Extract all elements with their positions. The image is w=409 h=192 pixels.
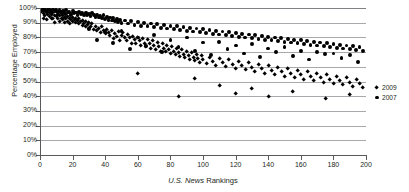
data-point-2009	[323, 96, 328, 101]
y-tick-label: 0%	[3, 151, 37, 158]
data-point-2007	[198, 30, 202, 34]
legend-label-2007: 2007	[381, 94, 397, 101]
y-tick-label: 30%	[3, 106, 37, 113]
x-tick-label: 140	[253, 161, 283, 168]
data-point-2007	[226, 47, 230, 51]
x-tick-mark	[105, 156, 106, 160]
data-point-2007	[136, 36, 140, 40]
scatter-chart: Percentage Employed U.S. News Rankings 2…	[0, 0, 409, 192]
plot-area	[40, 8, 366, 155]
data-point-2007	[111, 41, 115, 45]
data-point-2007	[307, 58, 311, 62]
x-tick-mark	[366, 156, 367, 160]
data-point-2009	[341, 83, 346, 88]
data-point-2007	[201, 41, 205, 45]
data-point-2009	[233, 91, 238, 96]
data-point-2007	[328, 45, 332, 49]
x-tick-mark	[333, 156, 334, 160]
data-point-2007	[217, 40, 221, 44]
data-point-2007	[332, 52, 336, 56]
legend-item-2009[interactable]: 2009	[373, 82, 397, 92]
x-tick-label: 20	[58, 161, 88, 168]
data-point-2009	[135, 71, 140, 76]
x-tick-label: 80	[155, 161, 185, 168]
data-point-2007	[242, 52, 246, 56]
data-point-2007	[169, 38, 173, 42]
x-tick-label: 160	[286, 161, 316, 168]
data-point-2009	[279, 70, 284, 75]
data-point-2007	[172, 27, 176, 31]
data-point-2007	[296, 41, 300, 45]
y-tick-label: 60%	[3, 62, 37, 69]
y-tick-label: 90%	[3, 18, 37, 25]
legend-item-2007[interactable]: 2007	[373, 92, 397, 102]
data-point-2009	[250, 86, 255, 91]
data-point-2007	[217, 33, 221, 37]
y-tick-label: 50%	[3, 77, 37, 84]
data-point-2007	[234, 44, 238, 48]
data-point-2007	[283, 45, 287, 49]
gridline	[40, 8, 366, 9]
data-point-2009	[272, 72, 277, 77]
data-point-2009	[344, 75, 349, 80]
data-point-2009	[305, 70, 310, 75]
data-point-2009	[331, 81, 336, 86]
x-tick-mark	[236, 156, 237, 160]
data-point-2007	[322, 44, 326, 48]
x-tick-mark	[268, 156, 269, 160]
x-tick-label: 100	[188, 161, 218, 168]
gridline	[40, 37, 366, 38]
data-point-2009	[282, 74, 287, 79]
x-tick-label: 60	[123, 161, 153, 168]
data-point-2009	[223, 64, 228, 69]
data-point-2007	[340, 56, 344, 60]
data-point-2007	[146, 24, 150, 28]
data-point-2009	[192, 76, 197, 81]
gridline	[40, 126, 366, 127]
x-tick-mark	[138, 156, 139, 160]
data-point-2007	[270, 38, 274, 42]
data-point-2009	[290, 89, 295, 94]
data-point-2007	[258, 55, 262, 59]
x-tick-label: 0	[25, 161, 55, 168]
data-point-2009	[253, 69, 258, 74]
data-point-2007	[361, 49, 365, 53]
data-point-2007	[87, 27, 91, 31]
data-point-2007	[348, 53, 352, 57]
data-point-2007	[332, 42, 336, 46]
gridline	[40, 67, 366, 68]
y-tick-label: 70%	[3, 48, 37, 55]
data-point-2007	[323, 52, 327, 56]
data-point-2009	[117, 38, 122, 43]
data-point-2007	[348, 47, 352, 51]
data-point-2009	[204, 61, 209, 66]
diamond-icon	[373, 83, 381, 91]
y-tick-label: 40%	[3, 92, 37, 99]
data-point-2009	[263, 71, 268, 76]
data-point-2007	[160, 50, 164, 54]
data-point-2009	[176, 94, 181, 99]
data-point-2007	[291, 54, 295, 58]
x-axis-title-italic: U.S. News	[168, 176, 204, 185]
data-point-2007	[209, 53, 213, 57]
data-point-2009	[360, 86, 365, 91]
y-axis-line	[40, 8, 41, 156]
data-point-2007	[358, 45, 362, 49]
gridline	[40, 140, 366, 141]
data-point-2007	[193, 49, 197, 53]
data-point-2007	[356, 60, 360, 64]
data-point-2007	[299, 49, 303, 53]
y-tick-label: 10%	[3, 136, 37, 143]
data-point-2009	[217, 84, 222, 89]
data-point-2009	[227, 58, 232, 63]
data-point-2007	[95, 38, 99, 42]
data-point-2007	[315, 44, 319, 48]
x-axis-title: U.S. News Rankings	[40, 176, 366, 185]
y-tick-label: 100%	[3, 4, 37, 11]
data-point-2007	[224, 33, 228, 37]
data-point-2007	[341, 47, 345, 51]
circle-icon	[373, 93, 381, 101]
data-point-2007	[128, 47, 132, 51]
data-point-2009	[318, 75, 323, 80]
legend-label-2009: 2009	[381, 84, 397, 91]
